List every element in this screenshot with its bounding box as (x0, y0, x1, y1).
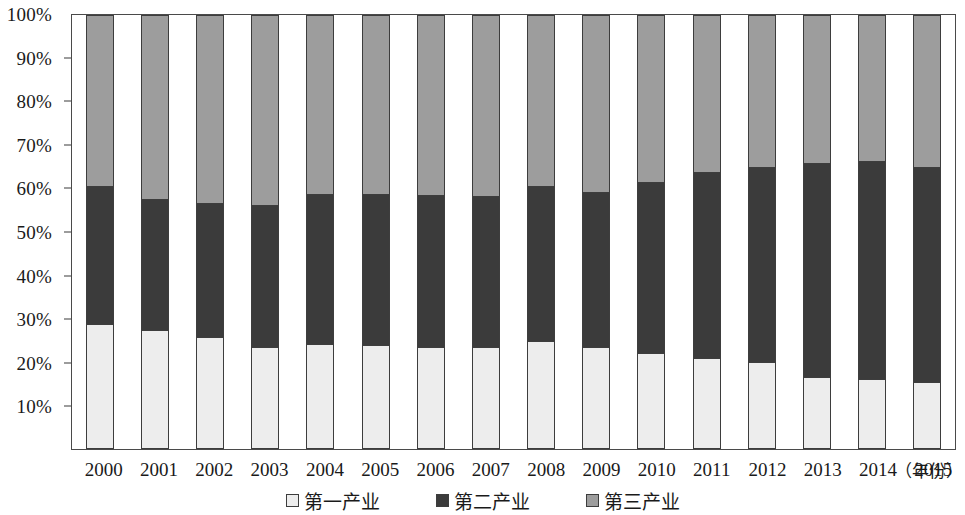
square-gray-swatch (586, 494, 599, 507)
bar-segment-第二产业 (86, 187, 114, 324)
square-light-swatch (286, 494, 299, 507)
bar-segment-第一产业 (858, 379, 886, 449)
x-tick-label-2012: 2012 (748, 460, 776, 479)
bar-segment-第一产业 (582, 347, 610, 449)
bar-segment-第一产业 (637, 353, 665, 449)
legend-item-第二产业: 第二产业 (436, 487, 530, 514)
plot-area (71, 14, 956, 450)
bar-segment-第一产业 (527, 341, 555, 449)
x-tick-label-2000: 2000 (85, 460, 113, 479)
bar-2006 (417, 15, 445, 449)
bar-2014 (858, 15, 886, 449)
x-tick-label-2011: 2011 (693, 460, 721, 479)
y-tick-label-70: 70% (17, 135, 52, 154)
x-tick-label-2008: 2008 (527, 460, 555, 479)
bar-segment-第二产业 (362, 195, 390, 345)
bar-segment-第三产业 (748, 15, 776, 168)
bar-segment-第三产业 (472, 15, 500, 197)
bar-segment-第二产业 (251, 206, 279, 347)
y-tick-label-90: 90% (17, 48, 52, 67)
bar-segment-第二产业 (472, 197, 500, 347)
bar-2013 (803, 15, 831, 449)
bar-2005 (362, 15, 390, 449)
bar-segment-第三产业 (803, 15, 831, 164)
x-tick-label-2014: 2014 (859, 460, 887, 479)
bar-segment-第一产业 (472, 347, 500, 449)
bar-segment-第二产业 (417, 196, 445, 347)
bar-segment-第三产业 (527, 15, 555, 187)
x-axis: 2000200120022003200420052006200720082009… (71, 456, 956, 482)
bar-segment-第一产业 (913, 382, 941, 449)
x-tick-label-2007: 2007 (472, 460, 500, 479)
bar-segment-第三产业 (858, 15, 886, 162)
legend-label: 第二产业 (454, 487, 530, 514)
x-tick-label-2010: 2010 (638, 460, 666, 479)
bar-segment-第一产业 (306, 344, 334, 449)
y-tick-label-100: 100% (7, 5, 52, 24)
bar-2003 (251, 15, 279, 449)
bar-segment-第三产业 (362, 15, 390, 195)
x-tick-label-2001: 2001 (140, 460, 168, 479)
x-tick-label-2009: 2009 (582, 460, 610, 479)
y-tick-label-60: 60% (17, 179, 52, 198)
legend-label: 第三产业 (604, 487, 680, 514)
bar-segment-第二产业 (693, 173, 721, 359)
y-axis: 100% 90% 80% 70% 60% 50% 40% 30% 20% 10% (0, 0, 60, 460)
legend-label: 第一产业 (304, 487, 380, 514)
bar-group (72, 15, 955, 449)
bar-segment-第一产业 (748, 362, 776, 449)
bar-segment-第三产业 (913, 15, 941, 168)
bar-segment-第一产业 (417, 347, 445, 449)
bar-2007 (472, 15, 500, 449)
bar-segment-第三产业 (196, 15, 224, 204)
bar-2012 (748, 15, 776, 449)
square-dark-swatch (436, 494, 449, 507)
bar-2001 (141, 15, 169, 449)
bar-segment-第二产业 (637, 183, 665, 353)
bar-segment-第三产业 (141, 15, 169, 200)
x-tick-label-2013: 2013 (804, 460, 832, 479)
legend-item-第三产业: 第三产业 (586, 487, 680, 514)
y-tick-label-40: 40% (17, 266, 52, 285)
x-axis-title: （年份） (895, 456, 963, 482)
bar-2008 (527, 15, 555, 449)
bar-2009 (582, 15, 610, 449)
stacked-bar-chart: 100% 90% 80% 70% 60% 50% 40% 30% 20% 10%… (0, 0, 965, 515)
bar-2000 (86, 15, 114, 449)
bar-2010 (637, 15, 665, 449)
y-tick-label-50: 50% (17, 223, 52, 242)
bar-segment-第三产业 (306, 15, 334, 195)
bar-segment-第二产业 (527, 187, 555, 342)
bar-2002 (196, 15, 224, 449)
bar-segment-第一产业 (362, 345, 390, 449)
bar-2004 (306, 15, 334, 449)
bar-segment-第二产业 (306, 195, 334, 344)
x-tick-label-2006: 2006 (417, 460, 445, 479)
x-tick-label-2004: 2004 (306, 460, 334, 479)
bar-segment-第二产业 (913, 168, 941, 382)
bar-segment-第二产业 (141, 200, 169, 330)
bar-segment-第三产业 (582, 15, 610, 193)
x-tick-label-2002: 2002 (195, 460, 223, 479)
bar-segment-第三产业 (417, 15, 445, 196)
bar-segment-第三产业 (86, 15, 114, 187)
bar-segment-第一产业 (196, 337, 224, 449)
bar-segment-第三产业 (251, 15, 279, 206)
bar-2015 (913, 15, 941, 449)
y-tick-label-80: 80% (17, 92, 52, 111)
y-tick-label-30: 30% (17, 310, 52, 329)
x-tick-label-2005: 2005 (361, 460, 389, 479)
bar-segment-第一产业 (693, 358, 721, 449)
bar-segment-第二产业 (803, 164, 831, 378)
bar-segment-第一产业 (141, 330, 169, 449)
chart-legend: 第一产业第二产业第三产业 (0, 486, 965, 515)
bar-segment-第一产业 (803, 377, 831, 449)
bar-segment-第二产业 (858, 162, 886, 379)
bar-segment-第三产业 (693, 15, 721, 173)
y-tick-label-20: 20% (17, 353, 52, 372)
bar-segment-第二产业 (748, 168, 776, 362)
bar-2011 (693, 15, 721, 449)
bar-segment-第一产业 (86, 324, 114, 449)
bar-segment-第三产业 (637, 15, 665, 183)
legend-item-第一产业: 第一产业 (286, 487, 380, 514)
